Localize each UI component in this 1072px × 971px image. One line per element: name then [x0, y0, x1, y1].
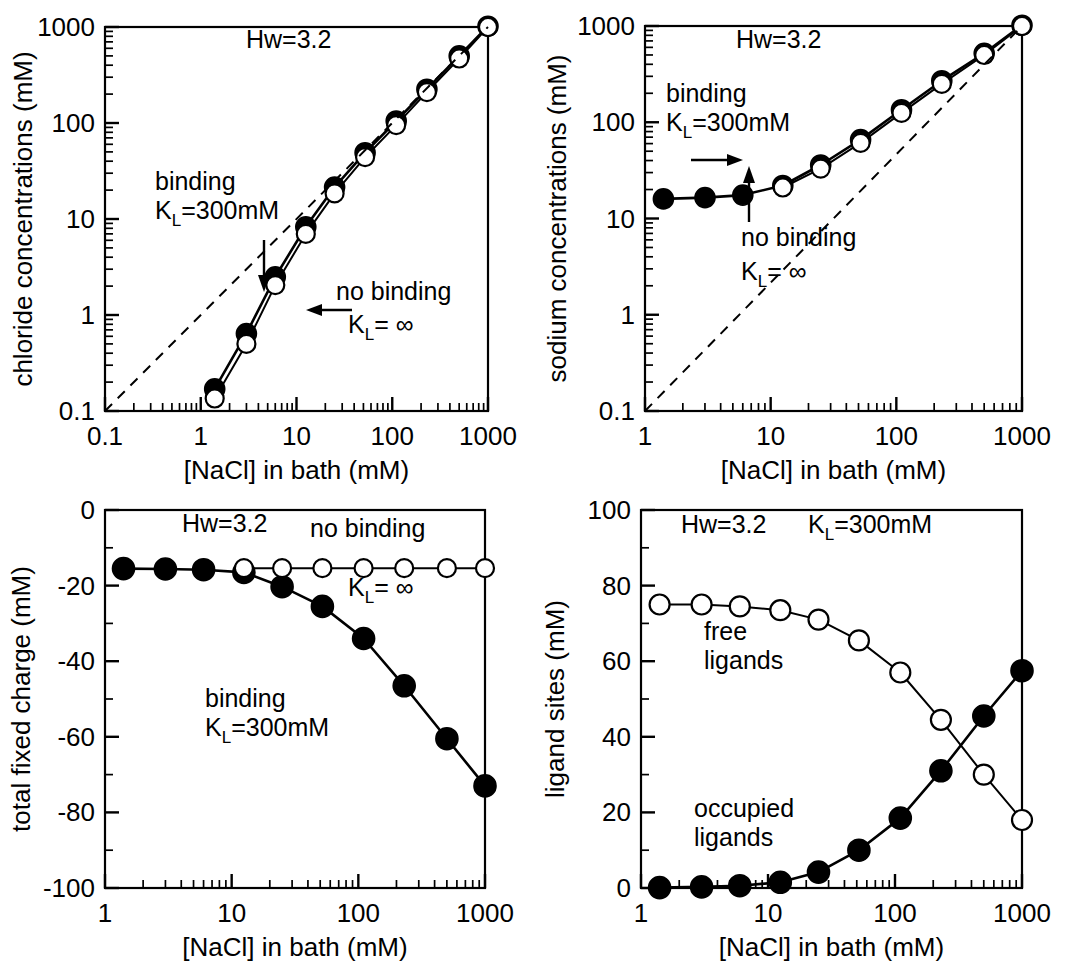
- y-axis-ticks: [645, 26, 659, 411]
- y-tick-label: -20: [57, 571, 95, 601]
- x-tick-label: 1000: [993, 421, 1051, 451]
- x-axis-title: [NaCl] in bath (mM): [182, 932, 407, 962]
- occupied-ligands-label-2: ligands: [694, 823, 773, 851]
- filled-marker: [311, 595, 333, 617]
- binding-label: binding: [666, 79, 747, 107]
- filled-marker: [729, 875, 751, 897]
- kl-annotation: KL= ∞: [348, 573, 414, 607]
- filled-marker: [769, 871, 791, 893]
- open-marker: [235, 559, 253, 577]
- open-marker: [770, 600, 790, 620]
- open-marker: [1012, 810, 1032, 830]
- y-tick-label: 100: [588, 495, 631, 525]
- occupied-ligands-label-1: occupied: [694, 794, 794, 822]
- hw-label: Hw=3.2: [246, 25, 331, 53]
- y-tick-label: 1: [621, 300, 635, 330]
- filled-marker: [691, 876, 713, 898]
- y-tick-label: -40: [57, 646, 95, 676]
- panel-fixed-charge: 11010010000-20-40-60-80-100[NaCl] in bat…: [0, 485, 536, 971]
- kl-annotation: KL= ∞: [348, 310, 414, 344]
- y-tick-label: 10: [606, 204, 635, 234]
- filled-marker: [353, 628, 375, 650]
- y-tick-label: 20: [602, 797, 631, 827]
- kl-annotation: KL=300mM: [666, 108, 790, 142]
- y-axis-ticks: [641, 510, 655, 888]
- filled-marker: [474, 775, 496, 797]
- x-tick-label: 1000: [456, 898, 514, 928]
- open-marker: [774, 179, 792, 197]
- filled-marker: [889, 807, 911, 829]
- binding-label: binding: [205, 684, 286, 712]
- y-tick-label: 1000: [37, 12, 95, 42]
- no-binding-label: no binding: [741, 223, 856, 251]
- y-tick-label: 40: [602, 722, 631, 752]
- y-tick-labels: 0.11101001000: [577, 11, 635, 426]
- series-markers: [113, 558, 497, 797]
- open-marker: [849, 630, 869, 650]
- open-marker: [266, 276, 284, 294]
- kl-annotation: KL= ∞: [741, 257, 807, 291]
- x-tick-label: 100: [371, 421, 414, 451]
- y-tick-label: -80: [57, 797, 95, 827]
- filled-marker: [653, 189, 673, 209]
- x-tick-label: 1: [638, 421, 652, 451]
- open-marker: [893, 104, 911, 122]
- open-marker: [809, 610, 829, 630]
- no-binding-arrow-head: [743, 166, 755, 183]
- x-tick-label: 1: [98, 898, 112, 928]
- open-marker: [692, 595, 712, 615]
- y-tick-label: 0.1: [599, 396, 635, 426]
- x-tick-label: 10: [754, 898, 783, 928]
- y-tick-label: 100: [592, 107, 635, 137]
- filled-marker: [695, 188, 715, 208]
- open-marker: [890, 663, 910, 683]
- series-line: [660, 671, 1022, 888]
- kl-annotation: KL=300mM: [205, 713, 329, 747]
- open-marker: [933, 75, 951, 93]
- x-tick-label: 100: [873, 898, 916, 928]
- filled-marker: [1011, 660, 1033, 682]
- hw-label: Hw=3.2: [736, 25, 821, 53]
- x-tick-label: 100: [337, 898, 380, 928]
- series-line: [124, 569, 486, 786]
- kl-annotation: KL=300mM: [808, 510, 932, 544]
- free-ligands-label-2: ligands: [704, 646, 783, 674]
- filled-marker: [271, 576, 293, 598]
- x-axis-title: [NaCl] in bath (mM): [719, 932, 944, 962]
- x-axis-title: [NaCl] in bath (mM): [721, 455, 946, 485]
- y-tick-label: 1000: [577, 11, 635, 41]
- filled-marker: [154, 558, 176, 580]
- y-tick-label: 80: [602, 571, 631, 601]
- open-marker: [438, 559, 456, 577]
- free-ligands-label-1: free: [704, 617, 747, 645]
- open-marker: [418, 83, 436, 101]
- no-binding-label: no binding: [310, 514, 425, 542]
- y-tick-labels: 020406080100: [588, 495, 631, 903]
- y-axis-ticks: [105, 27, 119, 411]
- open-marker: [313, 559, 331, 577]
- x-tick-labels: 1101001000: [634, 898, 1051, 928]
- hw-label: Hw=3.2: [182, 509, 267, 537]
- y-tick-label: -60: [57, 722, 95, 752]
- filled-marker: [973, 705, 995, 727]
- x-axis-ticks: [105, 874, 485, 888]
- y-tick-labels: 0-20-40-60-80-100: [43, 495, 95, 903]
- open-marker: [931, 710, 951, 730]
- open-marker: [297, 225, 315, 243]
- y-tick-labels: 0.11101001000: [37, 12, 95, 426]
- filled-marker: [930, 760, 952, 782]
- x-tick-label: 100: [875, 421, 918, 451]
- x-axis-ticks: [645, 397, 1022, 411]
- kl-annotation: KL=300mM: [155, 196, 279, 230]
- no-binding-label: no binding: [336, 277, 451, 305]
- y-tick-label: 100: [52, 108, 95, 138]
- filled-marker: [113, 558, 135, 580]
- y-tick-label: 0: [617, 873, 631, 903]
- x-axis-title: [NaCl] in bath (mM): [184, 455, 409, 485]
- y-axis-title: sodium concentrations (mM): [542, 55, 572, 383]
- open-marker: [273, 559, 291, 577]
- y-tick-label: 0.1: [59, 396, 95, 426]
- y-tick-label: -100: [43, 873, 95, 903]
- open-marker: [476, 559, 494, 577]
- y-tick-label: 10: [66, 204, 95, 234]
